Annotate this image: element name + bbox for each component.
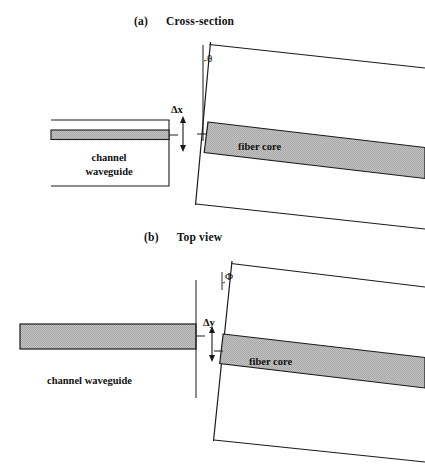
panel-a-tag: (a) bbox=[134, 15, 148, 27]
channel-waveguide-label-a-line1: channel bbox=[70, 151, 148, 165]
channel-waveguide-label-a: channel waveguide bbox=[70, 151, 148, 179]
channel-waveguide-core-a bbox=[51, 130, 169, 140]
fiber-cladding-top-b bbox=[231, 264, 425, 288]
panel-b-title-text: Top view bbox=[177, 231, 223, 243]
figure-root: (a)Cross-section (b)Top view channel wav… bbox=[0, 0, 425, 468]
phi-angle-arc bbox=[223, 282, 226, 283]
channel-waveguide-label-b: channel waveguide bbox=[47, 374, 132, 388]
delta-x-label: Δx bbox=[171, 104, 183, 115]
fiber-cladding-bottom-a bbox=[196, 204, 425, 229]
panel-a-title-text: Cross-section bbox=[166, 15, 234, 27]
channel-waveguide-label-a-line2: waveguide bbox=[70, 165, 148, 179]
offset-arrow-head-down-b bbox=[209, 355, 215, 362]
fiber-cladding-top-a bbox=[210, 45, 425, 69]
offset-arrow-head-down-a bbox=[180, 145, 186, 152]
phi-angle-label: Φ bbox=[225, 270, 233, 282]
fiber-core-label-b: fiber core bbox=[249, 355, 292, 369]
panel-b-title: (b)Top view bbox=[144, 231, 222, 243]
fiber-core-label-a: fiber core bbox=[238, 140, 281, 154]
offset-arrow-head-up-a bbox=[180, 116, 186, 123]
panel-a-title: (a)Cross-section bbox=[134, 15, 234, 27]
channel-waveguide-band-b bbox=[20, 324, 196, 349]
theta-angle-label: θ bbox=[207, 52, 212, 64]
delta-y-label: Δy bbox=[203, 317, 215, 328]
panel-a-graphics bbox=[51, 42, 425, 229]
fiber-cladding-bottom-b bbox=[214, 440, 425, 462]
panel-b-tag: (b) bbox=[144, 231, 159, 243]
panel-b-graphics bbox=[20, 261, 425, 462]
